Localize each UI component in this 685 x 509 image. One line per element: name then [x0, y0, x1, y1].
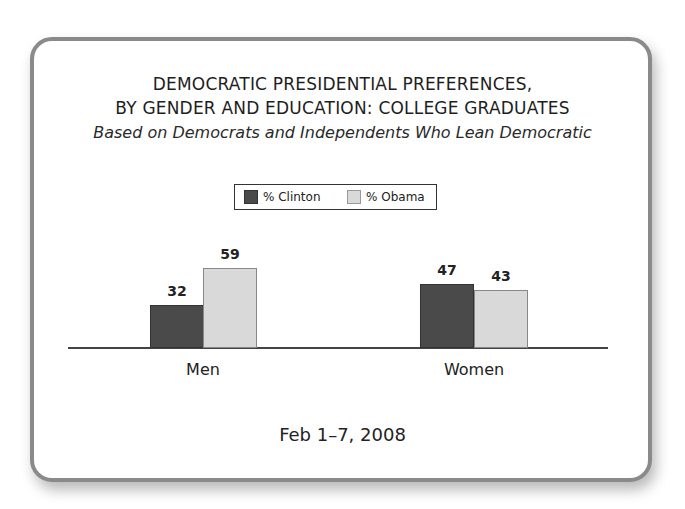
- value-label-women-obama: 43: [474, 268, 528, 284]
- bar-men-obama: [203, 268, 257, 348]
- value-label-men-clinton: 32: [150, 283, 204, 299]
- date-range: Feb 1–7, 2008: [0, 424, 685, 445]
- bar-men-clinton: [150, 305, 204, 348]
- value-label-men-obama: 59: [203, 246, 257, 262]
- category-label-women: Women: [414, 360, 534, 379]
- value-label-women-clinton: 47: [420, 262, 474, 278]
- bar-women-clinton: [420, 284, 474, 348]
- bar-women-obama: [474, 290, 528, 348]
- category-label-men: Men: [143, 360, 263, 379]
